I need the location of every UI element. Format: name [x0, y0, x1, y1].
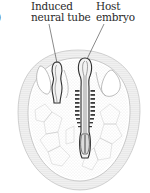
- induced-neural-tube: [52, 62, 62, 103]
- embryo-illustration: [0, 0, 150, 193]
